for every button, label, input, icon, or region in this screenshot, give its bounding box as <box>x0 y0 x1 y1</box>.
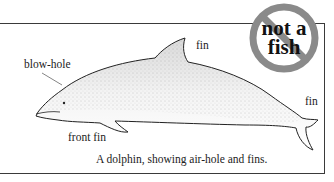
blow-hole-pointer <box>42 73 62 85</box>
figure-caption: A dolphin, showing air-hole and fins. <box>96 153 267 165</box>
badge-line-2: fish <box>268 38 301 57</box>
label-tail-fin: fin <box>305 95 318 107</box>
label-dorsal-fin: fin <box>196 39 209 51</box>
label-blow-hole: blow-hole <box>24 58 71 70</box>
label-front-fin: front fin <box>68 131 106 143</box>
not-a-fish-badge: not a fish <box>248 2 320 74</box>
